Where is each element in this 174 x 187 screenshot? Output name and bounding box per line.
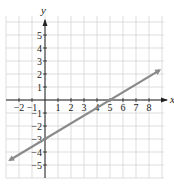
x-tick-label: 2 (69, 102, 74, 113)
x-tick-label: 8 (147, 102, 152, 113)
y-tick-label: −4 (31, 147, 42, 158)
x-tick-label: 7 (134, 102, 139, 113)
coordinate-plane: xy −2−11234567854321−1−2−3−4−5 (0, 0, 174, 187)
y-tick-label: −2 (31, 121, 42, 132)
y-tick-label: 1 (37, 82, 42, 93)
x-axis-arrow-icon (161, 98, 168, 103)
y-tick-label: 2 (37, 69, 42, 80)
y-axis-arrow-icon (43, 19, 48, 26)
x-tick-label: −2 (14, 102, 25, 113)
y-tick-label: 4 (37, 43, 42, 54)
x-tick-label: 3 (82, 102, 87, 113)
y-axis-label: y (40, 4, 46, 16)
y-tick-label: −1 (31, 108, 42, 119)
grid-lines (6, 16, 164, 178)
x-axis-label: x (169, 93, 174, 105)
y-tick-label: 3 (37, 56, 42, 67)
x-tick-label: 6 (121, 102, 126, 113)
x-tick-label: 1 (56, 102, 61, 113)
x-tick-label: 5 (108, 102, 113, 113)
y-tick-label: 5 (37, 30, 42, 41)
y-tick-label: −5 (31, 160, 42, 171)
